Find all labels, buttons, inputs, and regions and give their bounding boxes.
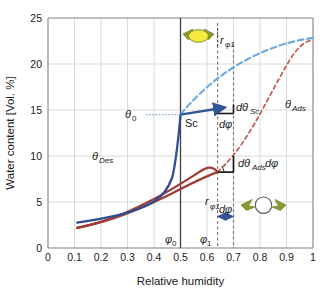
figure-container: 0 0.1 0.2 0.3 0.4 0.5 0.6 0.7 0.8 0.9 1 …: [0, 0, 328, 301]
y-tick-5: 25: [30, 12, 42, 24]
svg-text:θ: θ: [92, 150, 98, 162]
x-tick-labels: 0 0.1 0.2 0.3 0.4 0.5 0.6 0.7 0.8 0.9 1: [45, 251, 316, 263]
x-tick-9: 0.9: [279, 251, 294, 263]
y-tick-labels: 0 5 10 15 20 25: [30, 12, 42, 254]
y-tick-3: 15: [30, 104, 42, 116]
cropped-caption: [0, 292, 328, 301]
svg-text:dθ: dθ: [238, 157, 250, 169]
svg-text:Des: Des: [99, 156, 113, 165]
dphi-upper-label: dφ: [219, 118, 232, 130]
svg-text:dφ: dφ: [265, 157, 278, 169]
svg-text:φ1: φ1: [225, 40, 235, 49]
svg-text:0: 0: [172, 239, 177, 248]
svg-text:0: 0: [132, 114, 137, 123]
svg-text:1: 1: [207, 239, 212, 248]
y-tick-4: 20: [30, 58, 42, 70]
x-tick-10: 1: [310, 251, 316, 263]
x-tick-4: 0.4: [147, 251, 162, 263]
y-axis-title: Water content [Vol. %]: [4, 76, 16, 189]
chart-svg: 0 0.1 0.2 0.3 0.4 0.5 0.6 0.7 0.8 0.9 1 …: [0, 0, 328, 301]
sc-label: Sc: [185, 117, 198, 129]
x-axis-title: Relative humidity: [137, 275, 225, 287]
x-tick-2: 0.2: [94, 251, 109, 263]
x-tick-0: 0: [45, 251, 51, 263]
x-tick-3: 0.3: [120, 251, 135, 263]
svg-text:Ads: Ads: [291, 104, 306, 113]
x-tick-5: 0.5: [173, 251, 188, 263]
y-tick-1: 5: [36, 196, 42, 208]
y-tick-0: 0: [36, 242, 42, 254]
svg-text:Ads: Ads: [251, 163, 266, 172]
x-tick-7: 0.7: [226, 251, 241, 263]
x-tick-6: 0.6: [200, 251, 215, 263]
dphi-lower-label: dφ: [219, 203, 232, 215]
svg-text:dθ: dθ: [236, 101, 248, 113]
svg-text:θ: θ: [125, 108, 131, 120]
x-tick-1: 0.1: [67, 251, 82, 263]
svg-text:Sc: Sc: [250, 107, 259, 116]
y-tick-2: 10: [30, 150, 42, 162]
svg-text:θ: θ: [285, 98, 291, 110]
x-tick-8: 0.8: [253, 251, 268, 263]
